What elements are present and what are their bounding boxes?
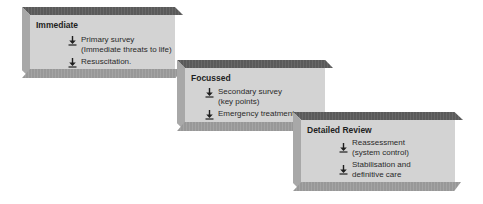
stage-item: Stabilisation and definitive care bbox=[339, 160, 411, 179]
stage-item-text: Reassessment (system control) bbox=[352, 138, 409, 157]
stage-detailed-review-top-bevel bbox=[293, 112, 463, 120]
down-arrow-icon bbox=[339, 165, 348, 175]
stage-item: Reassessment (system control) bbox=[339, 138, 409, 157]
stage-detailed-review-left-bevel bbox=[293, 112, 301, 191]
stage-item-text: Stabilisation and definitive care bbox=[352, 160, 411, 179]
stage-detailed-review-bottom-bevel bbox=[293, 182, 461, 191]
down-arrow-icon bbox=[339, 143, 348, 153]
stage-title: Detailed Review bbox=[307, 125, 372, 135]
stage-detailed-review-face: Detailed Review Reassessment (system con… bbox=[301, 120, 455, 182]
stage-detailed-review: Detailed Review Reassessment (system con… bbox=[0, 0, 483, 204]
